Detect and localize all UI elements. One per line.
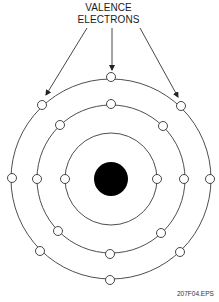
electron-outer-top (107, 73, 116, 82)
electron-middle-bottom (106, 250, 115, 259)
electron-middle-top (107, 100, 116, 109)
atom-diagram (0, 0, 219, 302)
electron-outer-upper-right (177, 102, 186, 111)
electron-middle-lower-left (54, 227, 63, 236)
electron-outer-lower-right (176, 248, 185, 257)
electron-middle-lower-right (157, 229, 166, 238)
electron-outer-bottom (106, 276, 115, 285)
electron-middle-right (180, 175, 189, 184)
electron-outer-right (206, 175, 215, 184)
arrow-left (46, 28, 87, 95)
electron-outer-left (8, 174, 17, 183)
nucleus (94, 162, 128, 196)
valence-arrows (46, 28, 178, 97)
figure-caption: 207F04.EPS (177, 290, 214, 297)
electron-middle-upper-left (56, 121, 65, 130)
electron-middle-left (33, 175, 42, 184)
electron-inner-right (153, 175, 162, 184)
electron-outer-lower-left (36, 247, 45, 256)
arrow-right (140, 28, 178, 97)
electron-outer-upper-left (38, 101, 47, 110)
electron-inner-left (61, 175, 70, 184)
electron-middle-upper-right (159, 122, 168, 131)
